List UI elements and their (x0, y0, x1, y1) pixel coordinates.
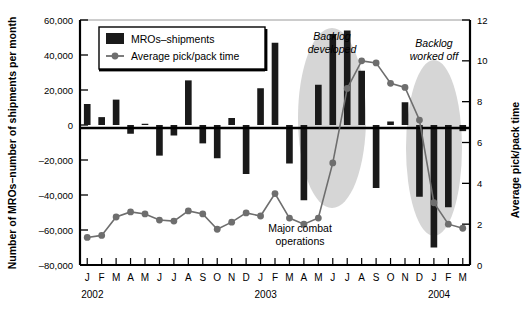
left-axis-tick-label: –60,000 (39, 225, 73, 236)
x-axis-month-label: O (387, 272, 395, 283)
line-data-point (170, 218, 177, 225)
x-axis-month-label: M (314, 272, 322, 283)
x-axis-month-label: M (112, 272, 120, 283)
line-data-point (98, 232, 105, 239)
annotation-major-combat-operations: Major combat operations (268, 222, 332, 247)
line-data-point (142, 211, 149, 218)
line-data-point (416, 117, 423, 124)
right-axis-tick-label: 6 (477, 137, 482, 148)
legend-bar-swatch (106, 33, 124, 44)
left-axis-tick-label: 40,000 (44, 50, 73, 61)
bar (257, 88, 264, 125)
bar (373, 125, 380, 188)
bar (387, 122, 394, 126)
chart-container: JFMAMJJASONDJFMAMJJASONDJFM 200220032004… (0, 0, 532, 311)
annotation-backlog-worked-off-line1: Backlog (415, 37, 453, 49)
right-axis-tick-label: 10 (477, 55, 488, 66)
line-data-point (257, 213, 264, 220)
bar (228, 118, 235, 125)
left-axis-tick-label: 20,000 (44, 85, 73, 96)
x-axis-year-label: 2002 (81, 289, 104, 300)
annotation-backlog-worked-off-line2: worked off (410, 50, 460, 62)
x-axis-month-label: A (358, 272, 365, 283)
x-axis-month-label: S (199, 272, 206, 283)
shipments-and-pick-pack-time-chart: JFMAMJJASONDJFMAMJJASONDJFM 200220032004… (0, 0, 532, 311)
x-axis-month-label: A (185, 272, 192, 283)
annotation-backlog-developed-line1: Backlog (313, 30, 351, 42)
bar (301, 125, 308, 200)
x-axis-year-label: 2003 (255, 289, 278, 300)
line-data-point (214, 226, 221, 233)
right-axis-tick-label: 0 (477, 260, 482, 271)
line-data-point (459, 225, 466, 232)
bar (445, 125, 452, 207)
bar (113, 100, 120, 125)
line-data-point (430, 199, 437, 206)
bar (156, 125, 163, 156)
bar (127, 125, 134, 134)
bar (315, 85, 322, 125)
bar (272, 43, 279, 125)
legend-label-mros-shipments: MROs–shipments (131, 33, 214, 45)
left-axis-tick-label: –20,000 (39, 155, 73, 166)
x-axis-month-label: D (242, 272, 249, 283)
line-data-point (272, 190, 279, 197)
line-data-point (387, 80, 394, 87)
annotation-backlog-developed: Backlog developed (308, 30, 358, 55)
x-axis-month-label: J (85, 272, 90, 283)
x-axis-month-label: O (213, 272, 221, 283)
line-data-point (156, 217, 163, 224)
right-axis-tick-label: 2 (477, 219, 482, 230)
x-axis-month-label: A (127, 272, 134, 283)
x-axis-month-label: A (301, 272, 308, 283)
left-axis-tick-label: –40,000 (39, 190, 73, 201)
right-axis-tick-label: 12 (477, 15, 488, 26)
legend-label-average-pick-pack-time: Average pick/pack time (131, 50, 240, 62)
bar (402, 102, 409, 125)
x-axis-month-label: J (258, 272, 263, 283)
x-axis-month-label: F (272, 272, 278, 283)
bar (98, 117, 105, 125)
x-axis-month-label: J (157, 272, 162, 283)
x-axis-month-label: J (171, 272, 176, 283)
line-data-point (286, 215, 293, 222)
line-data-point (445, 221, 452, 228)
line-data-point (315, 215, 322, 222)
line-data-point (127, 209, 134, 216)
bar (243, 125, 250, 174)
line-data-point (243, 210, 250, 217)
y2-axis-title: Average pick/pack time (509, 102, 521, 218)
x-axis-month-label: N (228, 272, 235, 283)
line-data-point (358, 57, 365, 64)
x-axis-month-label: D (416, 272, 423, 283)
chart-legend: MROs–shipments Average pick/pack time (99, 27, 267, 71)
bar (286, 125, 293, 164)
y-axis-title: Number of MROs–number of shipments per m… (6, 17, 18, 270)
x-axis-month-label: M (285, 272, 293, 283)
line-data-point (228, 219, 235, 226)
line-data-point (329, 160, 336, 167)
x-axis-month-label: N (401, 272, 408, 283)
legend-box-shadow-right (265, 29, 267, 71)
line-data-point (113, 214, 120, 221)
annotation-major-combat-line2: operations (275, 235, 324, 247)
x-axis-month-label: F (99, 272, 105, 283)
x-axis-month-label: S (373, 272, 380, 283)
left-axis-tick-label: 0 (68, 120, 73, 131)
legend-line-dot-swatch (112, 53, 119, 60)
line-data-point (84, 234, 91, 241)
x-axis-month-label: M (141, 272, 149, 283)
left-axis-tick-label: –80,000 (39, 260, 73, 271)
right-axis-tick-label: 4 (477, 178, 482, 189)
annotation-major-combat-line1: Major combat (268, 222, 332, 234)
left-axis-tick-label: 60,000 (44, 15, 73, 26)
x-axis-month-label: J (431, 272, 436, 283)
bar (185, 80, 192, 125)
x-axis-month-label: F (445, 272, 451, 283)
right-axis-tick-label: 8 (477, 96, 482, 107)
line-data-point (402, 84, 409, 91)
x-axis-month-label: J (345, 272, 350, 283)
annotation-backlog-worked-off: Backlog worked off (410, 37, 460, 62)
line-data-point (185, 207, 192, 214)
bar (171, 125, 178, 136)
